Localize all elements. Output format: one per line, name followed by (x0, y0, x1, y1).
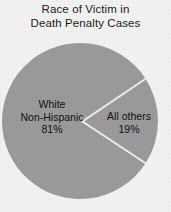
chart-title: Race of Victim in Death Penalty Cases (0, 3, 171, 30)
pie-label-white-value: 81% (8, 123, 96, 136)
pie-label-white-non-hispanic: White Non-Hispanic 81% (8, 98, 96, 136)
pie-label-all-others: All others 19% (98, 110, 160, 135)
pie-label-others-value: 19% (98, 123, 160, 136)
chart-title-line-1: Race of Victim in (0, 3, 171, 17)
pie-label-white-line-2: Non-Hispanic (8, 111, 96, 124)
pie-chart-figure: Race of Victim in Death Penalty Cases Wh… (0, 0, 171, 212)
chart-title-line-2: Death Penalty Cases (0, 17, 171, 31)
pie-label-others-line-1: All others (98, 110, 160, 123)
pie-label-white-line-1: White (8, 98, 96, 111)
